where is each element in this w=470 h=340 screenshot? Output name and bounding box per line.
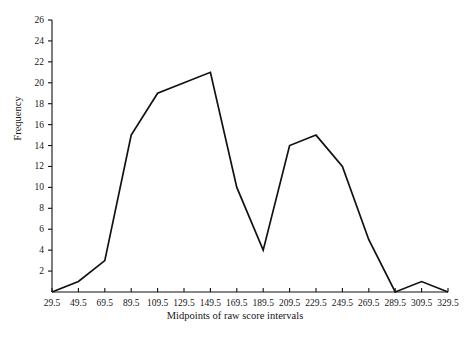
x-axis-tick-label: 89.5	[123, 298, 140, 308]
y-axis-tick-label: 6	[14, 224, 44, 234]
x-axis-tick-label: 69.5	[96, 298, 113, 308]
y-axis-title: Frequency	[12, 74, 23, 164]
y-axis-tick-label: 24	[14, 36, 44, 46]
x-axis-tick-label: 129.5	[173, 298, 194, 308]
x-axis-tick-label: 289.5	[385, 298, 406, 308]
y-axis-ticks	[48, 20, 52, 271]
x-axis-tick-label: 329.5	[437, 298, 458, 308]
x-axis-tick-label: 249.5	[332, 298, 353, 308]
y-axis-tick-label: 22	[14, 57, 44, 67]
x-axis-title: Midpoints of raw score intervals	[0, 310, 470, 321]
y-axis-tick-label: 2	[14, 266, 44, 276]
y-axis-tick-label: 10	[14, 182, 44, 192]
x-axis-tick-label: 269.5	[358, 298, 379, 308]
x-axis-tick-label: 309.5	[411, 298, 432, 308]
chart-plot-area	[0, 0, 470, 340]
y-axis-tick-label: 4	[14, 245, 44, 255]
x-axis-tick-label: 109.5	[147, 298, 168, 308]
x-axis-tick-label: 169.5	[226, 298, 247, 308]
x-axis-tick-label: 209.5	[279, 298, 300, 308]
y-axis-tick-label: 8	[14, 203, 44, 213]
frequency-polyline	[52, 72, 448, 292]
x-axis-tick-label: 29.5	[44, 298, 61, 308]
x-axis-tick-label: 189.5	[253, 298, 274, 308]
x-axis-tick-label: 229.5	[305, 298, 326, 308]
chart-axes	[52, 20, 448, 292]
frequency-polygon-chart: 2468101214161820222426 29.549.569.589.51…	[0, 0, 470, 340]
y-axis-tick-label: 26	[14, 15, 44, 25]
x-axis-tick-label: 149.5	[200, 298, 221, 308]
x-axis-tick-label: 49.5	[70, 298, 87, 308]
x-axis-ticks	[52, 288, 448, 292]
